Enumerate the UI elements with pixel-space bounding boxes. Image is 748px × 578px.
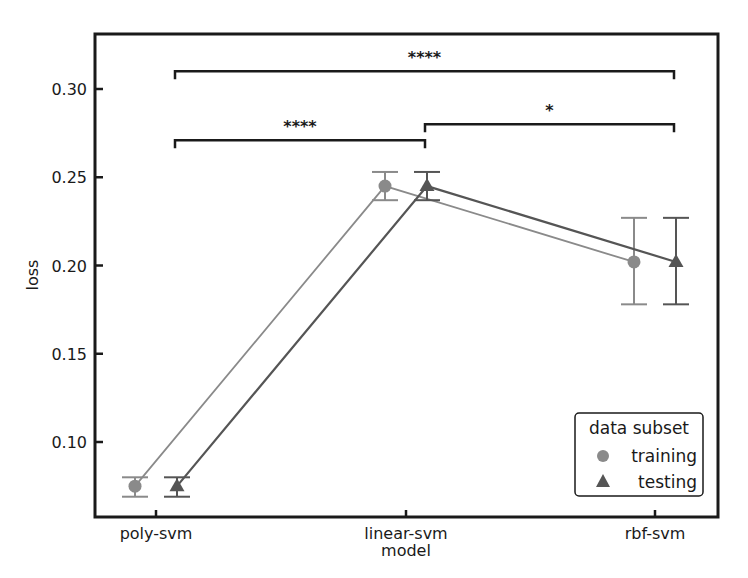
y-tick-label: 0.15 — [51, 345, 87, 364]
circle-marker-icon — [129, 480, 142, 493]
triangle-marker-icon — [420, 178, 435, 191]
significance-label: * — [545, 101, 554, 120]
significance-bracket — [175, 71, 674, 79]
significance-bracket — [425, 124, 674, 132]
x-axis: poly-svmlinear-svmrbf-svm — [120, 510, 686, 543]
circle-marker-icon — [628, 255, 641, 268]
y-axis-label: loss — [23, 260, 42, 291]
y-tick-label: 0.10 — [51, 433, 87, 452]
significance-label: **** — [408, 48, 442, 67]
circle-marker-icon — [379, 180, 392, 193]
line-chart: ********* 0.100.150.200.250.30 poly-svml… — [0, 0, 748, 578]
y-tick-label: 0.30 — [51, 80, 87, 99]
y-tick-label: 0.25 — [51, 168, 87, 187]
legend: data subset training testing — [575, 413, 703, 496]
significance-bracket — [175, 140, 425, 148]
legend-label-training: training — [631, 446, 697, 466]
significance-label: **** — [283, 117, 317, 136]
x-axis-label: model — [381, 541, 431, 560]
legend-label-testing: testing — [638, 472, 697, 492]
x-tick-label: poly-svm — [120, 524, 193, 543]
circle-marker-icon — [597, 450, 609, 462]
x-tick-label: rbf-svm — [625, 524, 686, 543]
series-line-training — [135, 186, 634, 486]
legend-title: data subset — [589, 418, 689, 438]
y-tick-label: 0.20 — [51, 257, 87, 276]
